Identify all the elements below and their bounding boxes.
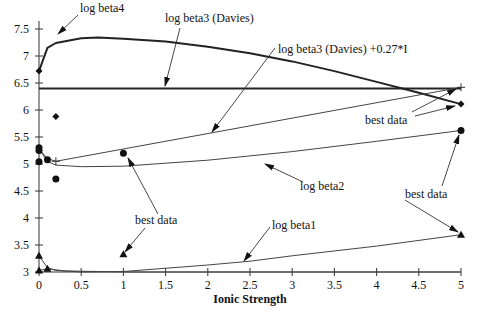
x-tick-label: 4: [374, 278, 380, 292]
annotation-arrow: [212, 48, 275, 132]
x-tick-label: 3.5: [327, 278, 342, 292]
annotation-label: log beta2: [300, 179, 344, 193]
circle-marker: [44, 156, 51, 163]
line-chart: 00.511.522.533.544.5533.544.555.566.577.…: [0, 0, 480, 313]
annotation-label: log beta1: [272, 218, 316, 232]
x-tick-label: 3: [289, 278, 295, 292]
annotation-label: log beta3 (Davies): [165, 11, 254, 25]
x-tick-label: 0.5: [74, 278, 89, 292]
annotation-arrow: [442, 135, 459, 186]
y-tick-label: 4: [23, 211, 29, 225]
annotation-label: log beta3 (Davies) +0.27*I: [278, 42, 407, 56]
annotation-label: best data: [365, 113, 408, 127]
circle-marker: [36, 158, 43, 165]
circle-marker: [52, 176, 59, 183]
chart: 00.511.522.533.544.5533.544.555.566.577.…: [0, 0, 480, 313]
series-log-beta2: [39, 131, 461, 167]
y-tick-label: 7.5: [14, 22, 29, 36]
y-tick-label: 6.5: [14, 76, 29, 90]
y-tick-label: 5.5: [14, 130, 29, 144]
annotation-arrow: [58, 15, 78, 34]
annotation-arrow: [405, 200, 458, 232]
annotation-arrow: [165, 28, 180, 86]
x-tick-label: 1: [120, 278, 126, 292]
annotation-label: best data: [135, 213, 178, 227]
annotation-arrow: [244, 227, 270, 261]
y-tick-label: 7: [23, 49, 29, 63]
circle-marker: [458, 127, 465, 134]
y-tick-label: 4.5: [14, 184, 29, 198]
x-tick-label: 1.5: [158, 278, 173, 292]
x-axis-label: Ionic Strength: [213, 292, 287, 306]
annotation-arrow: [265, 164, 303, 182]
circle-marker: [120, 150, 127, 157]
annotation-label: best data: [405, 187, 448, 201]
annotations: log beta4log beta3 (Davies)log beta3 (Da…: [58, 1, 459, 261]
y-tick-label: 6: [23, 103, 29, 117]
diamond-marker: [458, 101, 465, 108]
annotation-arrow: [128, 158, 158, 214]
circle-marker: [36, 147, 43, 154]
triangle-marker: [35, 252, 43, 259]
x-tick-label: 5: [458, 278, 464, 292]
y-tick-label: 5: [23, 157, 29, 171]
triangle-marker: [457, 231, 465, 238]
annotation-label: log beta4: [80, 1, 124, 15]
diamond-marker: [52, 113, 59, 120]
x-tick-label: 2: [205, 278, 211, 292]
annotation-arrow: [125, 228, 145, 252]
x-tick-label: 2.5: [243, 278, 258, 292]
series-lines: [39, 38, 461, 272]
x-tick-label: 0: [36, 278, 42, 292]
y-tick-label: 3.5: [14, 238, 29, 252]
diamond-marker: [36, 68, 43, 75]
x-tick-label: 4.5: [411, 278, 426, 292]
y-tick-label: 3: [23, 265, 29, 279]
